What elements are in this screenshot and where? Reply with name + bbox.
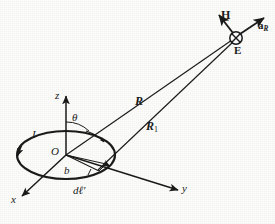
label-loop-current: I xyxy=(32,129,36,140)
label-field-point-E: E xyxy=(234,45,241,56)
label-differential-length: dℓ′ xyxy=(73,185,86,196)
label-y-axis: y xyxy=(182,183,187,194)
distance-line-R xyxy=(66,40,232,155)
label-distance-R: R xyxy=(135,95,143,107)
label-loop-radius-b: b xyxy=(64,165,70,176)
label-x-axis: x xyxy=(11,194,16,205)
label-R1-sub: 1 xyxy=(154,125,158,134)
x-axis xyxy=(22,155,66,196)
label-origin-O: O xyxy=(51,146,59,157)
label-unit-vector-aR: aR xyxy=(258,20,268,33)
label-magnetic-field-vector: H xyxy=(221,9,230,21)
label-distance-R1: R1 xyxy=(146,120,158,134)
distance-line-R1 xyxy=(98,42,233,170)
label-z-axis: z xyxy=(55,90,59,101)
physics-diagram-figure: H aR E R R1 z θ I O b dℓ′ x y xyxy=(0,0,275,224)
label-aR-sub: R xyxy=(264,25,269,33)
diagram-canvas xyxy=(0,0,275,224)
label-R1-base: R xyxy=(146,119,154,133)
label-theta-angle: θ xyxy=(72,112,77,123)
